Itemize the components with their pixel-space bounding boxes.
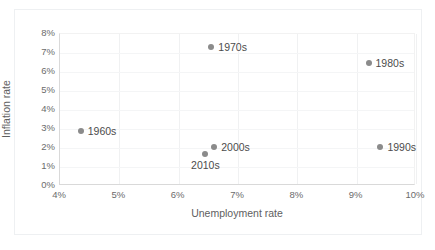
y-tick-label: 5%	[15, 85, 55, 95]
x-axis-tick-labels: 4%5%6%7%8%9%10%	[59, 189, 415, 205]
x-tick-label: 9%	[336, 189, 376, 201]
gridline-vertical	[416, 34, 417, 184]
gridline-horizontal	[60, 53, 414, 54]
data-label-1990s: 1990s	[387, 142, 416, 153]
y-tick-label: 7%	[15, 47, 55, 57]
gridline-vertical	[238, 34, 239, 184]
y-tick-label: 8%	[15, 28, 55, 38]
data-point-1990s[interactable]	[377, 144, 383, 150]
data-label-1970s: 1970s	[218, 42, 247, 53]
y-axis-title: Inflation rate	[0, 33, 14, 185]
y-tick-label: 6%	[15, 66, 55, 76]
y-axis-tick-labels: 0%1%2%3%4%5%6%7%8%	[8, 33, 55, 185]
gridline-horizontal	[60, 91, 414, 92]
data-point-1960s[interactable]	[78, 128, 84, 134]
data-point-2010s[interactable]	[202, 151, 208, 157]
gridline-vertical	[179, 34, 180, 184]
data-point-1970s[interactable]	[208, 44, 214, 50]
x-tick-label: 8%	[276, 189, 316, 201]
x-tick-label: 7%	[217, 189, 257, 201]
data-label-2000s: 2000s	[221, 142, 250, 153]
data-point-2000s[interactable]	[211, 144, 217, 150]
data-label-1960s: 1960s	[88, 125, 117, 136]
gridline-vertical	[297, 34, 298, 184]
y-tick-label: 1%	[15, 161, 55, 171]
y-tick-label: 3%	[15, 123, 55, 133]
y-tick-label: 2%	[15, 142, 55, 152]
plot-area: 1960s1970s1980s1990s2000s2010s	[59, 33, 415, 185]
gridline-vertical	[357, 34, 358, 184]
data-point-1980s[interactable]	[366, 60, 372, 66]
gridline-horizontal	[60, 72, 414, 73]
x-axis-title: Unemployment rate	[59, 207, 415, 219]
x-tick-label: 5%	[98, 189, 138, 201]
gridline-vertical	[119, 34, 120, 184]
gridline-horizontal	[60, 167, 414, 168]
y-tick-label: 4%	[15, 104, 55, 114]
gridline-horizontal	[60, 110, 414, 111]
x-tick-label: 4%	[39, 189, 79, 201]
scatter-chart: 1960s1970s1980s1990s2000s2010s 0%1%2%3%4…	[0, 0, 435, 250]
data-label-2010s: 2010s	[191, 160, 220, 171]
data-label-1980s: 1980s	[376, 57, 405, 68]
x-tick-label: 6%	[158, 189, 198, 201]
x-tick-label: 10%	[395, 189, 435, 201]
